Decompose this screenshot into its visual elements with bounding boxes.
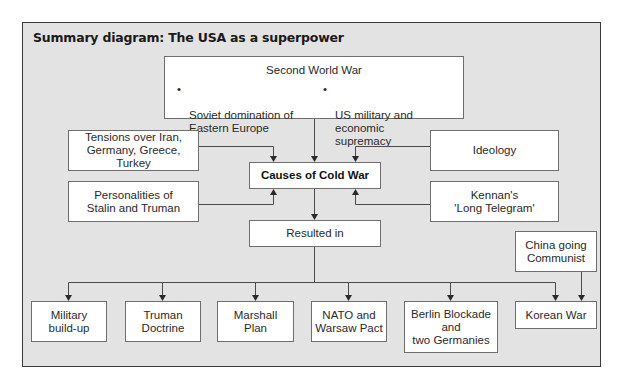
node-nato-warsaw-pact: NATO and Warsaw Pact bbox=[311, 301, 387, 342]
diagram-title: Summary diagram: The USA as a superpower bbox=[33, 30, 344, 45]
node-tensions: Tensions over Iran, Germany, Greece, Tur… bbox=[68, 130, 199, 171]
node-berlin-blockade: Berlin Blockade and two Germanies bbox=[404, 301, 498, 353]
node-china-going-communist: China going Communist bbox=[515, 231, 597, 272]
node-military-build-up: Military build-up bbox=[31, 301, 107, 342]
node-ideology: Ideology bbox=[430, 130, 559, 171]
bullet-soviet-domination: • Soviet domination of Eastern Europe bbox=[177, 83, 293, 135]
node-causes-of-cold-war: Causes of Cold War bbox=[249, 162, 381, 189]
bullet-icon: • bbox=[177, 83, 181, 96]
node-truman-doctrine: Truman Doctrine bbox=[125, 301, 201, 342]
bullet-icon: • bbox=[323, 83, 327, 96]
bullet-text: Soviet domination of Eastern Europe bbox=[189, 109, 293, 134]
node-resulted-in: Resulted in bbox=[249, 220, 381, 247]
bullet-text: US military and economic supremacy bbox=[335, 109, 413, 147]
node-personalities: Personalities of Stalin and Truman bbox=[68, 181, 199, 222]
node-second-world-war-label: Second World War bbox=[165, 64, 463, 77]
node-second-world-war: Second World War • Soviet domination of … bbox=[164, 56, 464, 119]
node-kennan-long-telegram: Kennan's 'Long Telegram' bbox=[430, 181, 559, 222]
node-marshall-plan: Marshall Plan bbox=[217, 301, 294, 342]
node-korean-war: Korean War bbox=[515, 301, 597, 329]
